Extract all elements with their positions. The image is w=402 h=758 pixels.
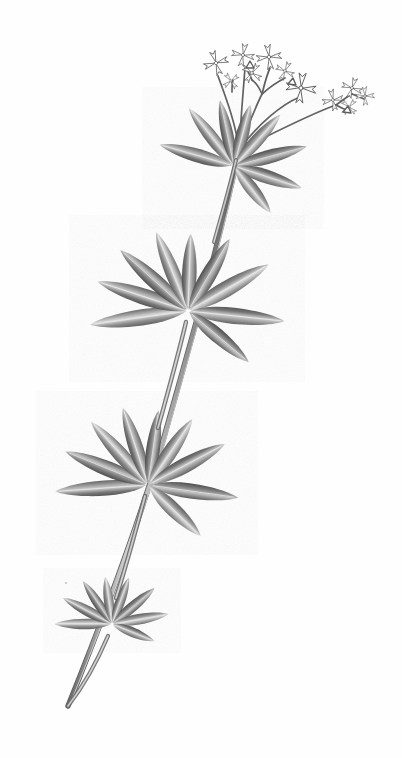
plate-background <box>0 0 402 758</box>
botanical-illustration-canvas <box>0 0 402 758</box>
botanical-plate: Botanical illustration of a whorled-leaf… <box>0 0 402 758</box>
paper-speck <box>65 582 67 584</box>
